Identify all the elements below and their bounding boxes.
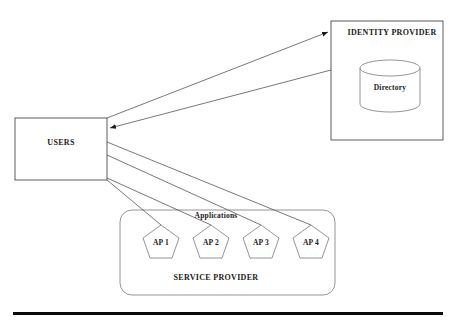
identity-provider-box[interactable]: [331, 21, 443, 140]
ap-2-label: AP 2: [203, 238, 219, 247]
users-box[interactable]: [15, 118, 107, 180]
ap-1-label: AP 1: [153, 238, 169, 247]
applications-label: Applications: [195, 211, 238, 220]
footer-divider: [13, 312, 443, 315]
application-1[interactable]: AP 1: [143, 225, 179, 258]
application-3[interactable]: AP 3: [243, 225, 279, 258]
service-provider-node[interactable]: Applications SERVICE PROVIDER: [120, 210, 335, 295]
directory-label: Directory: [374, 83, 407, 92]
connector-users-to-ap-3[interactable]: [107, 155, 261, 225]
connector-users-to-ap-1[interactable]: [107, 180, 161, 225]
ap-3-label: AP 3: [253, 238, 269, 247]
identity-provider-node[interactable]: IDENTITY PROVIDER Directory: [331, 21, 443, 140]
service-provider-box[interactable]: [120, 210, 335, 295]
users-node[interactable]: USERS: [15, 118, 107, 180]
users-label: USERS: [47, 138, 75, 147]
ap-4-label: AP 4: [303, 238, 319, 247]
application-2[interactable]: AP 2: [193, 225, 229, 258]
connector-users-to-identity-provider[interactable]: [107, 32, 328, 118]
connections: [107, 32, 331, 225]
identity-provider-label: IDENTITY PROVIDER: [347, 28, 436, 37]
application-4[interactable]: AP 4: [293, 225, 329, 258]
connector-identity-provider-to-users[interactable]: [110, 70, 331, 128]
diagram-canvas: USERS IDENTITY PROVIDER Directory Applic…: [0, 0, 455, 325]
connector-users-to-ap-2[interactable]: [107, 178, 211, 225]
service-provider-label: SERVICE PROVIDER: [174, 273, 259, 282]
